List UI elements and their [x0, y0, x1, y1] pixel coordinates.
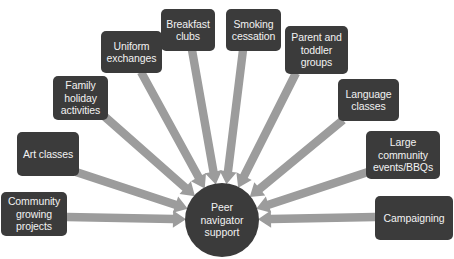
node-label: Large community events/BBQs: [373, 136, 433, 174]
node-label: Breakfast clubs: [166, 18, 209, 43]
node-breakfast-clubs[interactable]: Breakfast clubs: [161, 9, 215, 51]
hub-node-label: Peer navigator support: [200, 201, 243, 239]
node-label: Campaigning: [384, 212, 445, 225]
node-family-holiday-activities[interactable]: Family holiday activities: [53, 76, 108, 120]
node-label: Community growing projects: [8, 195, 60, 233]
node-label: Language classes: [346, 88, 392, 113]
node-label: Uniform exchanges: [107, 40, 157, 65]
node-uniform-exchanges[interactable]: Uniform exchanges: [101, 31, 162, 73]
node-campaigning[interactable]: Campaigning: [375, 196, 453, 240]
arrow-campaigning: [258, 210, 375, 227]
arrow-parent-and-toddler-groups: [236, 71, 299, 188]
node-large-community-events-bbqs[interactable]: Large community events/BBQs: [366, 131, 440, 179]
node-label: Family holiday activities: [61, 79, 100, 117]
node-parent-and-toddler-groups[interactable]: Parent and toddler groups: [285, 26, 348, 74]
node-label: Art classes: [23, 148, 73, 161]
hub-node-peer-navigator-support[interactable]: Peer navigator support: [185, 183, 259, 257]
peer-navigator-diagram: Peer navigator supportCommunity growing …: [0, 0, 454, 259]
node-label: Parent and toddler groups: [291, 31, 341, 69]
node-community-growing-projects[interactable]: Community growing projects: [1, 192, 67, 236]
arrow-community-growing-projects: [67, 210, 186, 227]
arrow-smoking-cessation: [219, 49, 247, 184]
node-language-classes[interactable]: Language classes: [338, 79, 399, 121]
node-label: Smoking cessation: [232, 18, 275, 43]
node-smoking-cessation[interactable]: Smoking cessation: [226, 9, 281, 51]
node-art-classes[interactable]: Art classes: [17, 132, 79, 176]
